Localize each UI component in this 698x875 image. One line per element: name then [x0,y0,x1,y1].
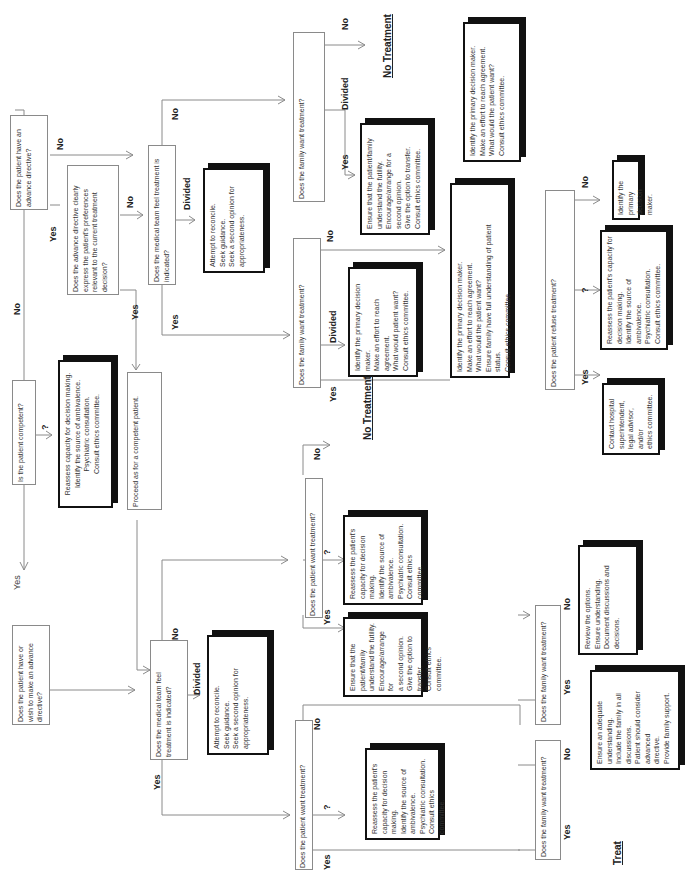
label-unsure: ? [40,425,50,431]
label-no: No [312,448,322,460]
question-team-indicated-top: Does the medical team feel treatment is … [148,145,176,285]
label-no: No [562,748,572,760]
label-unsure: ? [322,805,332,811]
action-reassess-lower: Reassess the patient's capacity for deci… [365,748,440,840]
question-patient-want-upper: Does the patient want treatment? [305,478,323,618]
question-family-want-bottom-b: Does the family want treatment? [535,740,561,860]
question-has-directive: Does the patient have an advance directi… [10,115,48,210]
action-ensure-futility-bottom: Ensure that the patient/family understan… [343,617,423,697]
action-reassess-upper: Reassess the patient's capacity for deci… [343,515,423,605]
action-reconcile-top: Attempt to reconcile. Seek guidance. See… [203,168,265,273]
question-family-want-top-yes: Does the family want treatment? [293,238,321,388]
action-ensure-futility-top: Ensure that the patient/family understan… [360,123,430,235]
label-yes: Yes [48,226,58,242]
action-identify-pdm-status: Identify the primary decision maker. Mak… [450,183,510,378]
label-yes: Yes [340,154,350,170]
label-no: No [312,718,322,730]
action-contact-hospital: Contact hospital superintendent, legal a… [602,383,660,455]
question-team-indicated-bottom: Does the medical team feel treatment is … [150,640,188,760]
label-yes: Yes [170,314,180,330]
label-unsure: ? [580,288,590,294]
label-yes: Yes [152,774,162,790]
action-review-options: Review the options. Ensure understanding… [578,545,638,655]
label-unsure: ? [322,550,332,556]
action-identify-pdm-short: Identify the primary decision maker. [612,160,640,220]
action-identify-pdm-divided: Identify the primary decision maker. Mak… [348,267,418,377]
label-yes: Yes [580,369,590,385]
question-directive-clear: Does the advance directive clearly expre… [67,165,119,295]
label-divided: Divided [328,310,338,343]
label-yes: Yes [562,824,572,840]
question-wish-directive: Does the patient have or wish to make an… [12,625,50,725]
label-no: No [12,303,22,315]
label-no: No [170,628,180,640]
action-reassess-incompetent: Reassess capacity for decision making. I… [58,360,113,508]
action-identify-pdm-top: Identify the primary decision maker. Mak… [463,22,521,162]
question-family-want-top-no: Does the family want treatment? [293,32,325,202]
action-ensure-understanding: Ensure an adequate understanding. Includ… [590,670,680,770]
label-divided: Divided [192,662,202,695]
label-yes: Yes [322,609,332,625]
action-reassess-refuse: Reassess the patient's capacity for deci… [600,230,668,350]
label-no: No [340,18,350,30]
label-no: No [125,196,135,208]
label-yes: Yes [12,575,22,590]
question-competent: Is the patient competent? [12,380,36,485]
action-proceed-competent: Proceed as for a competent patient. [127,372,162,510]
label-yes: Yes [130,304,140,320]
label-no: No [325,230,335,242]
label-divided: Divided [340,77,350,110]
label-no: No [580,176,590,188]
label-no: No [562,598,572,610]
outcome-no-treatment-top: No Treatment [382,14,393,78]
question-family-want-bottom-a: Does the family want treatment? [535,605,561,725]
outcome-no-treatment-mid: No Treatment [362,376,373,440]
question-patient-refuse: Does the patient refuse treatment? [545,190,575,390]
label-yes: Yes [328,386,338,402]
label-yes: Yes [322,854,332,870]
action-reconcile-bottom: Attempt to reconcile. Seek guidance. See… [207,635,269,755]
label-yes: Yes [562,679,572,695]
question-patient-want-lower: Does the patient want treatment? [295,720,313,870]
label-no: No [170,108,180,120]
outcome-treat: Treat [612,841,623,865]
label-no: No [55,138,65,150]
label-divided: Divided [182,177,192,210]
